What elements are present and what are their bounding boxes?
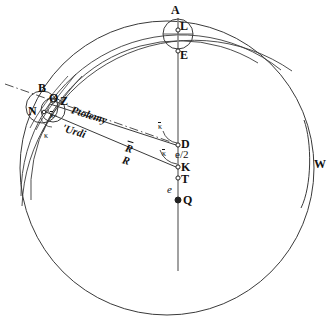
point-marker-T: [176, 176, 180, 180]
point-label-T: T: [181, 173, 189, 185]
kappa-left-upper-text: κ: [50, 112, 54, 120]
diagram-canvas: [0, 0, 335, 323]
point-label-Q: Q: [183, 194, 192, 206]
kappa-bar-upper-text: κ: [158, 123, 162, 131]
main-circle: [20, 21, 314, 315]
point-label-E: E: [180, 49, 188, 61]
label-eccentricity: e: [167, 184, 172, 195]
arc-middle: [21, 35, 281, 196]
point-marker-D: [176, 143, 180, 147]
label-kappa-bar-lower: κ: [162, 150, 166, 158]
radius-line: [46, 112, 176, 167]
astronomy-diagram: A L E B O Z N D K T Q W Ptolemy 'Urdi R …: [0, 0, 335, 323]
point-marker-K: [176, 165, 180, 169]
label-kappa-bar-upper: κ: [158, 123, 162, 131]
point-label-O: O: [49, 92, 58, 104]
label-kappa-left-lower: κ: [44, 132, 48, 140]
label-kappa-left-upper: κ: [50, 112, 54, 120]
point-label-N: N: [28, 105, 37, 117]
point-marker-Q: [175, 197, 181, 203]
point-marker-N: [42, 110, 46, 114]
point-label-A: A: [171, 4, 180, 16]
kappa-bar-lower-text: κ: [162, 150, 166, 158]
point-label-L: L: [180, 20, 188, 32]
point-label-W: W: [314, 158, 326, 170]
point-label-B: B: [38, 82, 46, 94]
point-label-Z: Z: [60, 95, 68, 107]
label-eccentricity-half: e/2: [175, 149, 188, 160]
limb-arc-right: [301, 120, 310, 208]
